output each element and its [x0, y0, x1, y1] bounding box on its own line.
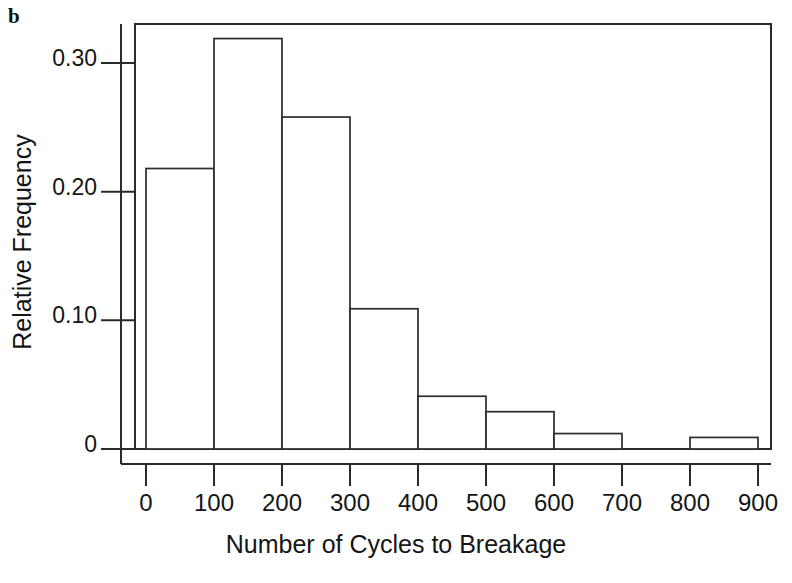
y-axis-title-wrap: Relative Frequency: [8, 82, 44, 402]
histogram-bar: [350, 309, 418, 449]
y-axis-ticks: 00.100.200.30: [52, 45, 135, 457]
x-tick-label: 800: [670, 489, 710, 516]
y-tick-label: 0.10: [52, 302, 97, 328]
histogram-bar: [214, 39, 282, 449]
y-tick-label: 0.20: [52, 174, 97, 200]
x-tick-label: 600: [534, 489, 574, 516]
y-axis-title: Relative Frequency: [8, 82, 37, 402]
histogram-figure: b 00.100.200.30 010020030040050060070080…: [0, 0, 792, 583]
x-tick-label: 400: [398, 489, 438, 516]
x-tick-label: 700: [602, 489, 642, 516]
histogram-bars: [146, 39, 758, 449]
histogram-bar: [690, 437, 758, 449]
histogram-bar: [418, 396, 486, 449]
x-tick-label: 200: [262, 489, 302, 516]
x-tick-label: 100: [194, 489, 234, 516]
histogram-bar: [554, 434, 622, 449]
plot-area: 00.100.200.30 01002003004005006007008009…: [0, 0, 792, 583]
y-tick-label: 0.30: [52, 45, 97, 71]
x-tick-label: 0: [139, 489, 152, 516]
x-tick-label: 300: [330, 489, 370, 516]
x-tick-label: 500: [466, 489, 506, 516]
x-tick-label: 900: [738, 489, 778, 516]
histogram-bar: [282, 117, 350, 449]
x-axis-title: Number of Cycles to Breakage: [0, 530, 792, 559]
y-tick-label: 0: [84, 431, 97, 457]
x-axis-ticks: 0100200300400500600700800900: [139, 464, 778, 516]
histogram-bar: [486, 412, 554, 449]
histogram-bar: [146, 169, 214, 449]
